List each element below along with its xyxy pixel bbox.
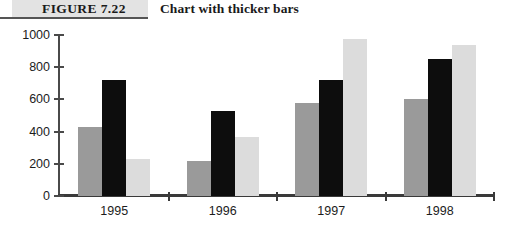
y-axis-tick-mark <box>54 195 64 197</box>
bar <box>78 127 102 196</box>
bar <box>343 39 367 196</box>
figure-tag: FIGURE 7.22 <box>42 1 126 17</box>
bar <box>404 99 428 196</box>
y-axis-line <box>58 34 60 196</box>
bar-chart: 02004006008001000 1995199619971998 <box>0 22 516 225</box>
figure-title: Chart with thicker bars <box>160 1 299 17</box>
x-axis-tick-mark <box>168 192 170 201</box>
y-axis-tick-label: 200 <box>4 158 50 170</box>
bar <box>187 161 211 196</box>
y-axis-tick-label: 400 <box>4 126 50 138</box>
figure-tag-rule <box>0 17 148 19</box>
x-axis-tick-mark <box>276 192 278 201</box>
y-axis-tick-mark <box>54 163 64 165</box>
y-axis-tick-label: 800 <box>4 61 50 73</box>
bar <box>428 59 452 196</box>
y-axis-tick-mark <box>54 34 64 36</box>
x-axis-tick-label: 1997 <box>291 204 371 218</box>
bar <box>452 45 476 196</box>
x-axis-tick-mark <box>385 192 387 201</box>
bar <box>102 80 126 196</box>
y-axis-tick-mark <box>54 66 64 68</box>
x-axis-tick-label: 1996 <box>183 204 263 218</box>
bar <box>235 137 259 196</box>
y-axis-tick-label: 0 <box>4 190 50 202</box>
figure-header: FIGURE 7.22 Chart with thicker bars <box>0 0 516 22</box>
x-axis-tick-label: 1998 <box>400 204 480 218</box>
y-axis-tick-label: 600 <box>4 93 50 105</box>
bar <box>295 103 319 196</box>
y-axis-tick-label: 1000 <box>4 29 50 41</box>
bar <box>211 111 235 196</box>
x-axis-tick-label: 1995 <box>74 204 154 218</box>
bar <box>319 80 343 196</box>
bar <box>126 159 150 196</box>
y-axis-tick-mark <box>54 131 64 133</box>
x-axis-tick-mark <box>493 192 495 201</box>
y-axis-tick-mark <box>54 98 64 100</box>
